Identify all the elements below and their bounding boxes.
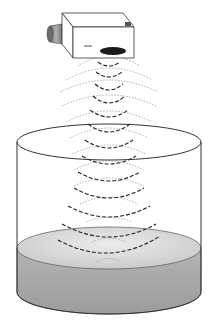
ultrasonic-level-diagram: [0, 0, 219, 327]
sound-waves-inner: [58, 62, 160, 253]
indicator-led-icon: [125, 22, 131, 26]
tank-rim: [17, 124, 201, 160]
sensor: [47, 13, 134, 58]
transducer-face: [100, 47, 126, 55]
liquid: [17, 227, 201, 314]
